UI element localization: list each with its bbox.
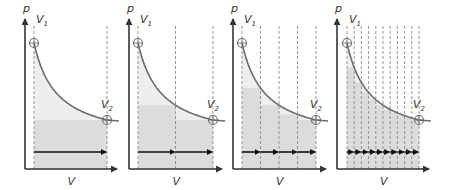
step-rectangle xyxy=(354,82,361,169)
v2-label: V2 xyxy=(101,98,114,113)
v-axis-label: V xyxy=(173,175,182,188)
step-rectangle xyxy=(383,109,390,169)
panel-4-steps: pVV1V2 xyxy=(230,2,328,188)
panel-2-steps: pVV1V2 xyxy=(126,2,225,188)
pv-diagram-figure: pVV1V2pVV1V2pVV1V2pVV1V2 xyxy=(0,0,455,190)
panel-10-steps: pVV1V2 xyxy=(334,2,431,188)
step-rectangle xyxy=(361,93,368,170)
p-axis-label: p xyxy=(334,2,342,15)
step-rectangle xyxy=(34,120,107,169)
step-rectangle xyxy=(261,105,280,169)
step-rectangle xyxy=(412,120,419,169)
v2-label: V2 xyxy=(207,98,220,113)
v1-label: V1 xyxy=(36,13,48,28)
step-rectangle xyxy=(369,100,376,169)
step-rectangle xyxy=(390,113,397,169)
step-rectangle xyxy=(347,68,354,170)
p-axis-label: p xyxy=(230,2,238,15)
v-axis-label: V xyxy=(68,175,77,188)
p-axis-label: p xyxy=(22,2,30,15)
step-rectangle xyxy=(298,120,317,169)
step-rectangle xyxy=(138,105,176,169)
step-rectangle xyxy=(279,114,298,169)
v1-label: V1 xyxy=(244,13,256,28)
v2-label: V2 xyxy=(413,98,426,113)
v-axis-label: V xyxy=(276,175,285,188)
v-axis-label: V xyxy=(380,175,389,188)
step-rectangle xyxy=(176,120,214,169)
v1-label: V1 xyxy=(349,13,361,28)
pv-diagrams-svg: pVV1V2pVV1V2pVV1V2pVV1V2 xyxy=(0,0,455,190)
panel-1-step: pVV1V2 xyxy=(22,2,119,188)
v1-label: V1 xyxy=(140,13,152,28)
step-rectangle xyxy=(397,116,404,169)
step-rectangle xyxy=(405,118,412,169)
v2-label: V2 xyxy=(310,98,323,113)
step-rectangle xyxy=(376,105,383,169)
step-rectangle xyxy=(242,88,261,169)
p-axis-label: p xyxy=(126,2,134,15)
